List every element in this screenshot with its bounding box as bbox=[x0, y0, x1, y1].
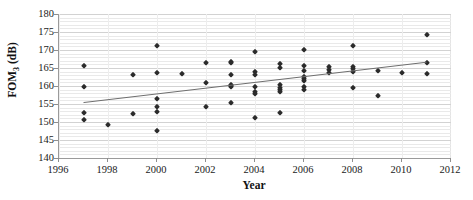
y-axis-tick-label: 155 bbox=[18, 99, 54, 109]
x-axis-tick-label: 1996 bbox=[36, 164, 80, 176]
x-axis-tick-label: 2004 bbox=[232, 164, 276, 176]
y-axis-tick-label: 175 bbox=[18, 27, 54, 37]
x-axis-tick-label: 2000 bbox=[134, 164, 178, 176]
y-axis-title-unit: (dB) bbox=[6, 42, 18, 67]
y-axis-tick-label: 180 bbox=[18, 9, 54, 19]
plot-area bbox=[58, 14, 451, 159]
x-axis-title: Year bbox=[58, 178, 450, 192]
x-axis-tick-mark bbox=[450, 158, 451, 162]
x-axis-tick-label: 2006 bbox=[281, 164, 325, 176]
y-axis-tick-label: 150 bbox=[18, 117, 54, 127]
x-axis-tick-mark bbox=[254, 158, 255, 162]
plot-inner bbox=[59, 14, 451, 158]
y-axis-title-base: FOM bbox=[6, 71, 18, 98]
x-axis-tick-mark bbox=[401, 158, 402, 162]
x-axis-ticks: 199619982000200220042006200820102012 bbox=[58, 158, 450, 178]
x-axis-tick-mark bbox=[107, 158, 108, 162]
x-axis-tick-mark bbox=[303, 158, 304, 162]
y-axis-tick-label: 140 bbox=[18, 153, 54, 163]
x-axis-tick-mark bbox=[58, 158, 59, 162]
x-axis-tick-mark bbox=[352, 158, 353, 162]
x-axis-tick-label: 2010 bbox=[379, 164, 423, 176]
x-axis-tick-label: 2008 bbox=[330, 164, 374, 176]
scatter-chart-figure: FOM3 (dB) 140145150155160165170175180 19… bbox=[0, 0, 473, 200]
x-axis-tick-mark bbox=[205, 158, 206, 162]
trendline bbox=[59, 14, 451, 158]
y-axis-tick-label: 145 bbox=[18, 135, 54, 145]
y-axis-tick-label: 170 bbox=[18, 45, 54, 55]
y-axis-tick-label: 160 bbox=[18, 81, 54, 91]
x-axis-tick-label: 2002 bbox=[183, 164, 227, 176]
x-axis-tick-label: 1998 bbox=[85, 164, 129, 176]
trendline-segment bbox=[84, 62, 427, 102]
x-axis-tick-label: 2012 bbox=[428, 164, 472, 176]
x-axis-tick-mark bbox=[156, 158, 157, 162]
y-axis-tick-label: 165 bbox=[18, 63, 54, 73]
